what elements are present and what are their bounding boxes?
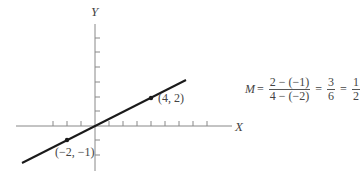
equals-sign: = xyxy=(257,82,264,97)
slope-equation: M = 2 − (−1) 4 − (−2) = 3 6 = 1 2 xyxy=(245,76,363,103)
y-axis-label: Y xyxy=(91,4,98,20)
fraction-numerator: 1 xyxy=(352,76,360,90)
slope-variable: M xyxy=(245,82,255,97)
fraction-rise-over-run: 2 − (−1) 4 − (−2) xyxy=(269,76,311,103)
fraction-one-half: 1 2 xyxy=(352,76,360,103)
point-neg2-neg1 xyxy=(65,138,69,142)
fraction-numerator: 3 xyxy=(327,76,335,90)
point-label-neg2-neg1: (−2, −1) xyxy=(55,145,95,160)
point-4-2 xyxy=(149,96,153,100)
equals-sign: = xyxy=(315,82,322,97)
fraction-three-sixths: 3 6 xyxy=(327,76,335,103)
fraction-denominator: 4 − (−2) xyxy=(270,90,310,103)
fraction-numerator: 2 − (−1) xyxy=(269,76,311,90)
point-label-4-2: (4, 2) xyxy=(158,91,184,106)
x-axis-ticks xyxy=(53,121,207,126)
y-axis-ticks xyxy=(95,38,100,155)
fraction-denominator: 2 xyxy=(353,90,359,103)
equals-sign: = xyxy=(340,82,347,97)
x-axis-label: X xyxy=(235,119,243,135)
fraction-denominator: 6 xyxy=(328,90,334,103)
